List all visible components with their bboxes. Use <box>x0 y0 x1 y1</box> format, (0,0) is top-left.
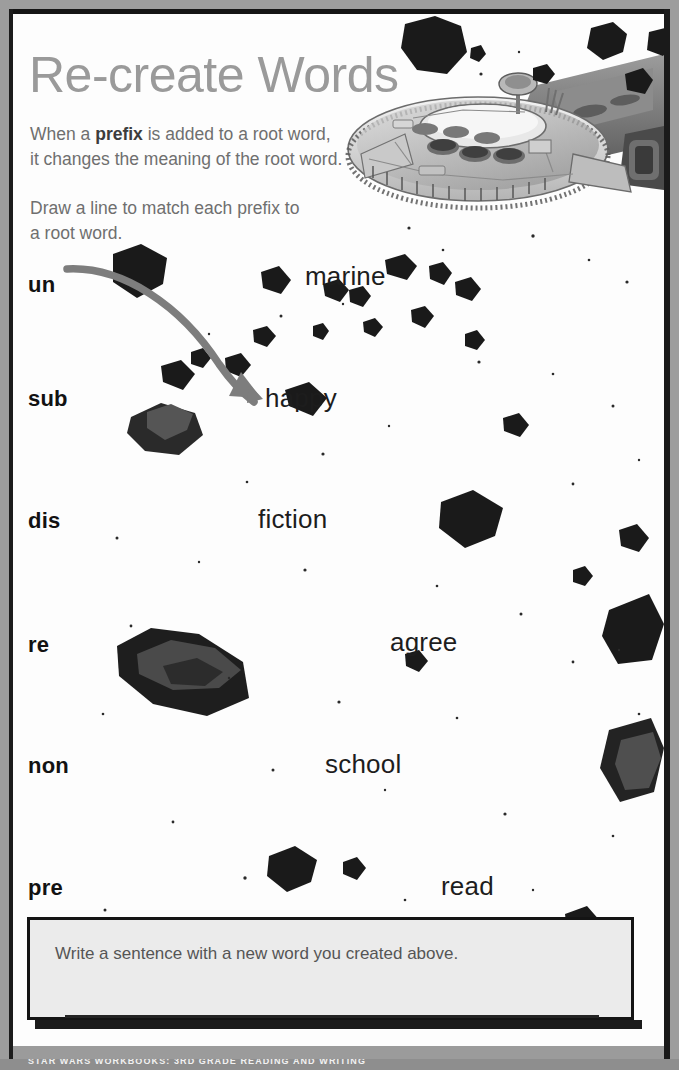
page-frame-left <box>0 0 9 1070</box>
prefix-item-sub[interactable]: sub <box>28 386 68 412</box>
worksheet-page: Re-create Words When a prefix is added t… <box>0 0 679 1070</box>
page-frame-right <box>670 0 679 1070</box>
root-item-happy[interactable]: happy <box>265 383 337 414</box>
intro-paragraph-2: Draw a line to match each prefix to a ro… <box>30 196 299 246</box>
footer-label: STAR WARS WORKBOOKS: 3RD GRADE READING A… <box>28 1059 366 1066</box>
root-item-read[interactable]: read <box>441 871 494 902</box>
prefix-item-non[interactable]: non <box>28 753 69 779</box>
starfield <box>31 51 641 996</box>
answer-box-shadow <box>35 1020 642 1029</box>
answer-writing-line[interactable] <box>65 1015 599 1018</box>
intro-keyword-prefix: prefix <box>95 124 143 144</box>
prefix-item-un[interactable]: un <box>28 272 55 298</box>
intro-paragraph-1: When a prefix is added to a root word, i… <box>30 122 342 172</box>
prefix-item-re[interactable]: re <box>28 632 49 658</box>
page-frame-top <box>0 0 679 9</box>
footer-strip: STAR WARS WORKBOOKS: 3RD GRADE READING A… <box>0 1059 679 1070</box>
radar-dish-icon <box>499 73 537 114</box>
prefix-item-pre[interactable]: pre <box>28 875 63 901</box>
root-item-fiction[interactable]: fiction <box>258 504 327 535</box>
prefix-item-dis[interactable]: dis <box>28 508 60 534</box>
answer-prompt-label: Write a sentence with a new word you cre… <box>55 944 458 964</box>
page-title: Re-create Words <box>29 46 398 104</box>
worksheet-paper: Re-create Words When a prefix is added t… <box>13 14 664 1046</box>
root-item-marine[interactable]: marine <box>305 261 386 292</box>
intro-text-a: When a <box>30 124 95 144</box>
gray-asteroids <box>117 403 664 802</box>
root-item-agree[interactable]: agree <box>390 627 458 658</box>
answer-box[interactable] <box>27 917 634 1020</box>
root-item-school[interactable]: school <box>325 749 401 780</box>
